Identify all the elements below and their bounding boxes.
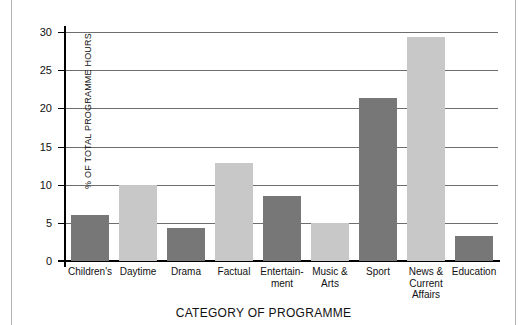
- bar: [359, 98, 397, 261]
- y-tick-mark: [58, 147, 66, 148]
- bar: [71, 215, 109, 261]
- figure-right-border: [515, 0, 516, 325]
- y-tick-mark: [58, 108, 66, 109]
- bar: [311, 223, 349, 261]
- y-tick-label: 25: [0, 65, 52, 76]
- x-axis-title: CATEGORY OF PROGRAMME: [0, 306, 527, 320]
- y-tick-mark: [58, 185, 66, 186]
- x-category-label: Sport: [354, 266, 402, 278]
- y-axis-title: % OF TOTAL PROGRAMME HOURS: [83, 11, 93, 211]
- x-category-label: Education: [450, 266, 498, 278]
- bar: [455, 236, 493, 261]
- x-category-label: Music & Arts: [306, 266, 354, 289]
- bar: [407, 37, 445, 261]
- y-tick-mark: [58, 223, 66, 224]
- y-tick-label: 5: [0, 218, 52, 229]
- x-category-label: News & Current Affairs: [402, 266, 450, 301]
- y-tick-label: 0: [0, 256, 52, 267]
- bar: [215, 163, 253, 261]
- bar: [119, 185, 157, 261]
- x-category-label: Children's: [66, 266, 114, 278]
- x-category-label: Daytime: [114, 266, 162, 278]
- y-tick-label: 10: [0, 180, 52, 191]
- figure-left-border: [11, 0, 12, 325]
- bar-chart-figure: 051015202530 % OF TOTAL PROGRAMME HOURS …: [0, 0, 527, 325]
- bar: [167, 228, 205, 261]
- plot-area: % OF TOTAL PROGRAMME HOURS: [66, 32, 498, 261]
- y-tick-mark: [58, 32, 66, 33]
- x-category-label: Factual: [210, 266, 258, 278]
- bar: [263, 196, 301, 261]
- y-tick-label: 20: [0, 103, 52, 114]
- y-tick-label: 30: [0, 27, 52, 38]
- y-tick-mark: [58, 261, 66, 262]
- y-tick-label: 15: [0, 142, 52, 153]
- gridline: [66, 32, 498, 33]
- x-category-label: Entertain- ment: [258, 266, 306, 289]
- y-tick-mark: [58, 70, 66, 71]
- x-category-label: Drama: [162, 266, 210, 278]
